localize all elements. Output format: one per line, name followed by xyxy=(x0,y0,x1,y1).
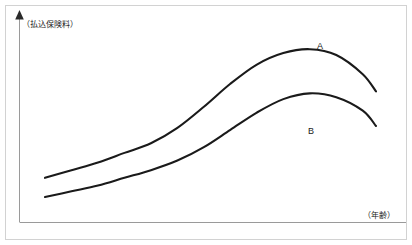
series-label-b: B xyxy=(308,127,314,136)
x-axis-label: （年齢） xyxy=(363,212,395,220)
up-arrow-icon xyxy=(15,10,24,20)
chart-container: （払込保険料） （年齢） A B xyxy=(0,0,412,245)
y-axis-label: （払込保険料） xyxy=(22,21,78,29)
chart-plot-area xyxy=(0,0,412,245)
series-label-a: A xyxy=(317,42,323,51)
series-line-b xyxy=(45,93,376,197)
chart-border xyxy=(6,6,407,240)
series-line-a xyxy=(45,49,376,178)
